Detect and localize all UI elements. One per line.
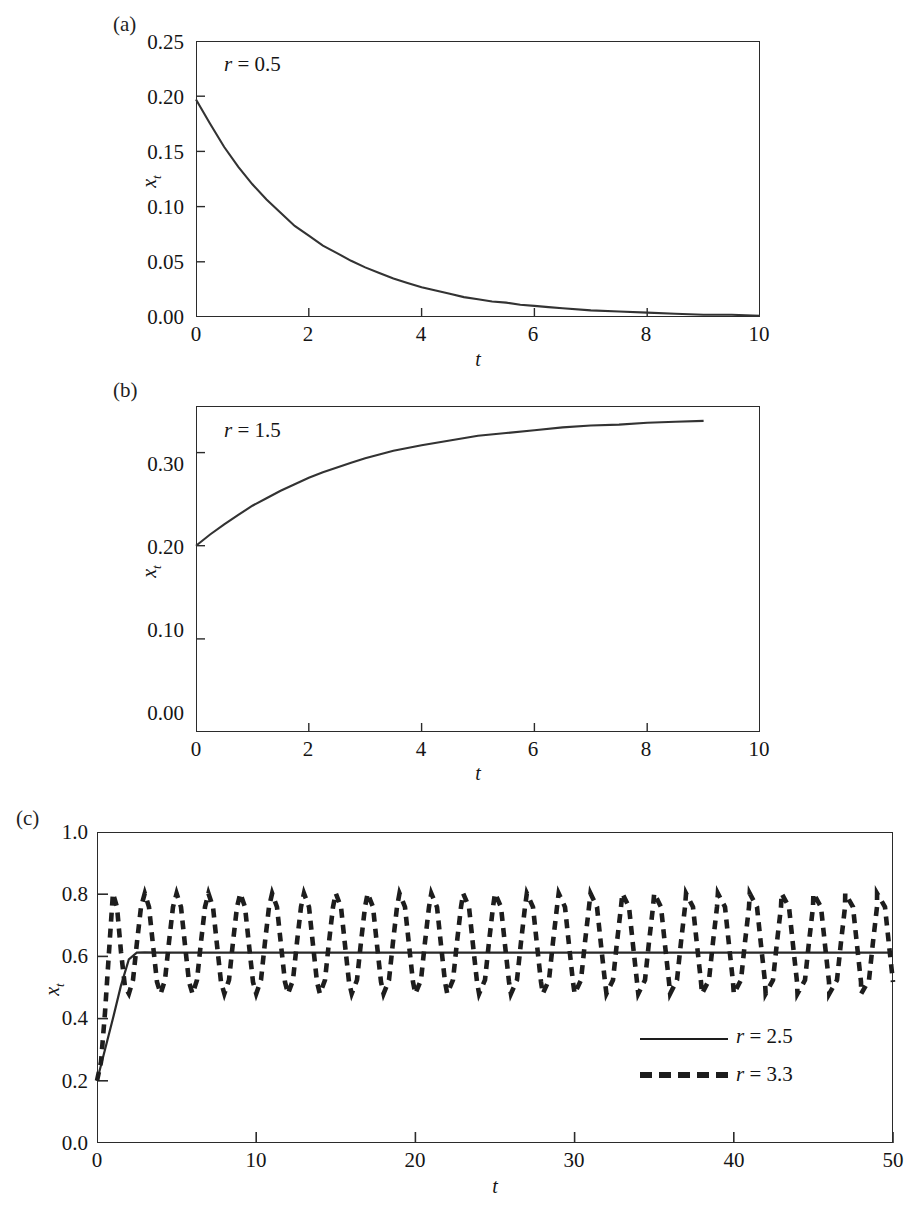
panel-a-xtick-2: 4 [391,322,451,347]
panel-b-xtick-5: 10 [729,737,789,762]
legend-label-r25: r = 2.5 [736,1024,793,1049]
panel-b-xtick-0: 0 [166,737,226,762]
panel-c-ytick-3: 0.4 [0,1006,88,1031]
panel-c-ytick-2: 0.6 [0,944,88,969]
panel-c-curve-area [97,832,893,1143]
panel-c-xtick-4: 40 [704,1148,764,1173]
panel-c-y-axis-title-var: x [41,987,63,996]
panel-b-ytick-0: 0.30 [96,452,184,477]
panel-b-series-r15 [196,421,704,546]
legend-r33-symbol: r [736,1062,744,1086]
panel-a-xtick-4: 8 [616,322,676,347]
panel-b-ticks [196,453,647,732]
panel-c-y-axis-title: xt [34,968,74,1008]
panel-b-y-axis-title: xt [131,550,171,590]
panel-b-y-axis-title-var: x [138,569,160,578]
panel-a-series-r05 [196,100,760,316]
panel-b-ytick-3: 0.00 [96,701,184,726]
panel-c-xtick-5: 50 [863,1148,915,1173]
panel-c-xtick-0: 0 [67,1148,127,1173]
panel-a-xtick-0: 0 [166,322,226,347]
panel-b-ytick-2: 0.10 [96,618,184,643]
panel-c-ytick-1: 0.8 [0,882,88,907]
panel-a-ticks [196,96,647,317]
legend-label-r33: r = 3.3 [736,1062,793,1087]
panel-b-xtick-1: 2 [278,737,338,762]
panel-b-xtick-3: 6 [503,737,563,762]
panel-c-y-axis-title-sub: t [52,983,67,987]
panel-a-curve-area [196,41,760,317]
legend-swatch-dashed [640,1072,728,1078]
panel-c-ytick-4: 0.2 [0,1069,88,1094]
panel-b-x-axis-title: t [448,762,508,785]
legend-swatch-solid [640,1038,728,1040]
panel-a-x-axis-title: t [448,348,508,371]
panel-b-y-axis-title-sub: t [149,565,164,569]
panel-c-xtick-1: 10 [226,1148,286,1173]
panel-a-xtick-3: 6 [503,322,563,347]
panel-a-y-axis-title-sub: t [149,175,164,179]
panel-a-xtick-5: 10 [729,322,789,347]
panel-c-legend: r = 2.5 r = 3.3 [640,1024,880,1094]
panel-a-xtick-1: 2 [278,322,338,347]
panel-c-x-axis-title: t [465,1175,525,1198]
legend-r25-symbol: r [736,1024,744,1048]
panel-b-xtick-2: 4 [391,737,451,762]
panel-c-xtick-3: 30 [544,1148,604,1173]
panel-b-xtick-4: 8 [616,737,676,762]
panel-a-ytick-0: 0.25 [96,30,184,55]
panel-a-ytick-4: 0.05 [96,250,184,275]
panel-b-label: (b) [113,378,138,403]
panel-a-y-axis-title: xt [131,160,171,200]
panel-a-ytick-1: 0.20 [96,85,184,110]
legend-r25-value: = 2.5 [744,1024,793,1048]
panel-a-y-axis-title-var: x [138,179,160,188]
panel-c-ytick-0: 1.0 [0,820,88,845]
legend-r33-value: = 3.3 [744,1062,793,1086]
panel-b-curve-area [196,406,760,732]
panel-c-xtick-2: 20 [385,1148,445,1173]
